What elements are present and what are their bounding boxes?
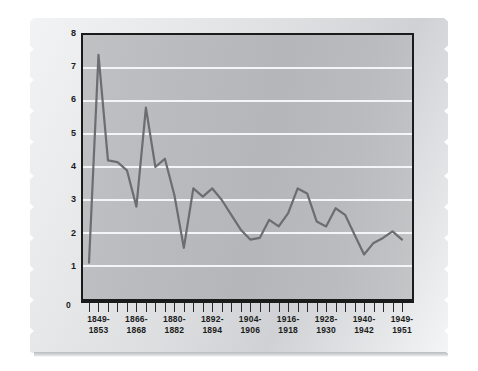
x-tick-12 [203,303,204,312]
plot-area [81,33,414,301]
x-label-end: 1951 [379,325,425,336]
y-tick-4: 4 [54,161,76,171]
x-tick-1 [98,303,99,312]
y-tick-5: 5 [54,128,76,138]
x-tick-11 [193,303,194,312]
y-tick-0: 0 [66,300,71,310]
x-axis-ticks [81,303,414,312]
y-tick-7: 7 [54,61,76,71]
x-tick-10 [184,303,185,312]
x-tick-20 [279,303,280,312]
x-tick-26 [336,303,337,312]
y-tick-1: 1 [54,261,76,271]
tear-right-edge [444,18,478,353]
x-tick-33 [402,303,403,312]
x-tick-7 [155,303,156,312]
x-tick-22 [298,303,299,312]
x-tick-30 [374,303,375,312]
x-tick-16 [241,303,242,312]
tear-left-edge [0,18,34,353]
x-tick-24 [317,303,318,312]
y-tick-6: 6 [54,94,76,104]
x-tick-32 [393,303,394,312]
y-tick-2: 2 [54,228,76,238]
x-tick-3 [117,303,118,312]
x-tick-27 [345,303,346,312]
x-axis-labels: 1849-18531866-18681880-18821892-18941904… [81,314,421,344]
x-tick-4 [127,303,128,312]
x-tick-9 [174,303,175,312]
x-tick-19 [269,303,270,312]
y-tick-8: 8 [54,28,76,38]
x-tick-29 [364,303,365,312]
x-tick-21 [288,303,289,312]
x-tick-23 [307,303,308,312]
data-series-line [83,35,412,299]
series-path-0 [89,55,402,263]
x-tick-13 [212,303,213,312]
y-axis-ticks: 8 7 6 5 4 3 2 1 [52,0,76,371]
paper-shadow [34,352,448,357]
y-tick-3: 3 [54,194,76,204]
x-tick-6 [146,303,147,312]
x-tick-5 [136,303,137,312]
x-tick-17 [250,303,251,312]
x-label-1949: 1949-1951 [379,314,425,336]
x-tick-18 [260,303,261,312]
x-tick-15 [231,303,232,312]
x-tick-25 [326,303,327,312]
x-tick-8 [165,303,166,312]
x-tick-14 [222,303,223,312]
x-tick-2 [108,303,109,312]
x-tick-28 [355,303,356,312]
x-label-start: 1949- [379,314,425,325]
x-tick-31 [383,303,384,312]
x-tick-0 [89,303,90,312]
chart-screenshot: MURDER PER 100,000 POPULATION 8 7 6 5 4 … [0,0,478,371]
